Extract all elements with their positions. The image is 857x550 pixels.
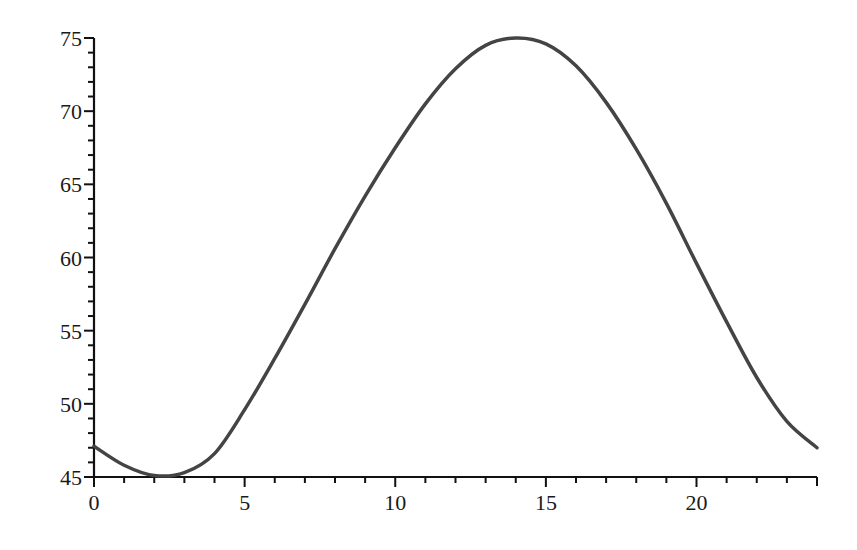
y-tick-label: 60 (60, 246, 82, 271)
line-chart: 0510152045505560657075 (0, 0, 857, 550)
x-tick-label: 10 (384, 490, 406, 515)
axes (85, 38, 817, 486)
x-tick-label: 0 (89, 490, 100, 515)
ticks (84, 38, 817, 487)
x-tick-label: 5 (239, 490, 250, 515)
x-tick-label: 15 (535, 490, 557, 515)
y-tick-label: 65 (60, 172, 82, 197)
y-tick-label: 45 (60, 465, 82, 490)
tick-labels: 0510152045505560657075 (60, 26, 708, 515)
y-tick-label: 50 (60, 392, 82, 417)
y-tick-label: 55 (60, 319, 82, 344)
y-tick-label: 70 (60, 99, 82, 124)
x-tick-label: 20 (686, 490, 708, 515)
series-layer (94, 38, 817, 476)
series-line (94, 38, 817, 476)
y-tick-label: 75 (60, 26, 82, 51)
